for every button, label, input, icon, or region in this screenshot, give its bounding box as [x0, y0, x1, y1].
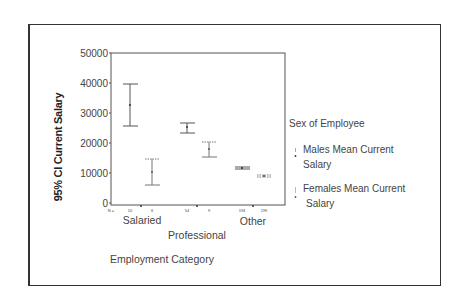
females-means	[151, 148, 265, 177]
legend: Sex of Employee Males Mean Current Salar…	[289, 118, 405, 209]
legend-title: Sex of Employee	[289, 118, 365, 129]
n-females-professional: 9	[208, 208, 211, 213]
plot-area	[111, 53, 285, 205]
legend-females-line2: Salary	[306, 198, 334, 209]
y-tick-10000: 10000	[80, 168, 108, 179]
n-males-salaried: 10	[128, 208, 133, 213]
x-axis-label: Employment Category	[110, 253, 215, 265]
y-tick-40000: 40000	[80, 78, 108, 89]
n-males-professional: 54	[185, 208, 190, 213]
n-females-salaried: 6	[151, 208, 154, 213]
category-professional: Professional	[168, 229, 226, 241]
category-other: Other	[240, 215, 267, 227]
n-males-other: 194	[239, 208, 246, 213]
category-salaried: Salaried	[123, 214, 162, 226]
n-females-other: 199	[261, 208, 268, 213]
y-tick-30000: 30000	[80, 108, 108, 119]
legend-males-line2: Salary	[303, 159, 331, 170]
legend-males-line1: Males Mean Current	[303, 144, 394, 155]
legend-females-icon	[295, 188, 297, 198]
n-prefix: N =	[108, 208, 115, 213]
legend-males-icon	[295, 149, 297, 157]
y-tick-20000: 20000	[80, 138, 108, 149]
legend-females-line1: Females Mean Current	[303, 183, 405, 194]
y-tick-50000: 50000	[80, 48, 108, 59]
error-bar-chart: 0 10000 20000 30000 40000 50000 N = 10 6…	[0, 0, 459, 306]
